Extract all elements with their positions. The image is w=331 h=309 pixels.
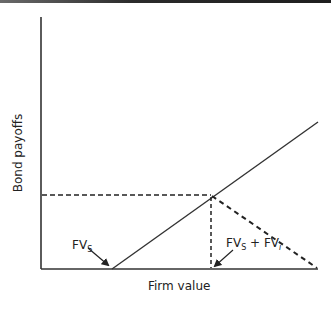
fvs-annotation: FVS (72, 238, 92, 252)
dashed-diagonal-line (212, 196, 317, 268)
fvs-main: FV (72, 238, 87, 252)
fvsi-main2: FV (264, 236, 279, 250)
bond-payoff-diagram (0, 0, 331, 309)
fvsi-main1: FV (226, 236, 241, 250)
fvsi-sub2: i (279, 243, 281, 252)
x-axis-label: Firm value (148, 278, 210, 294)
fvsi-plus: + (246, 236, 264, 250)
y-axis-label: Bond payoffs (10, 108, 26, 198)
fvs-sub: S (87, 245, 92, 254)
fvs-plus-fvi-annotation: FVS + FVi (226, 236, 281, 250)
fvs-fvi-arrow (215, 250, 233, 266)
